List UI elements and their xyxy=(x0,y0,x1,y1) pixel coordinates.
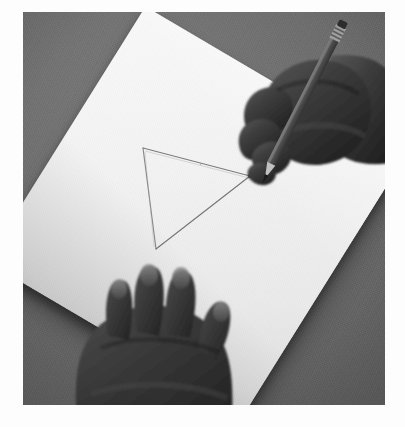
photograph-frame: A right hand holds a pencil and draws a … xyxy=(0,0,405,427)
photograph-image xyxy=(23,12,385,405)
image-alt-text: A right hand holds a pencil and draws a … xyxy=(0,0,1,1)
paper-sheet xyxy=(23,12,385,405)
paper-surface xyxy=(23,12,385,405)
paper-shading xyxy=(23,12,385,405)
image-title: Hand drawing a triangle on paper with a … xyxy=(0,0,1,1)
